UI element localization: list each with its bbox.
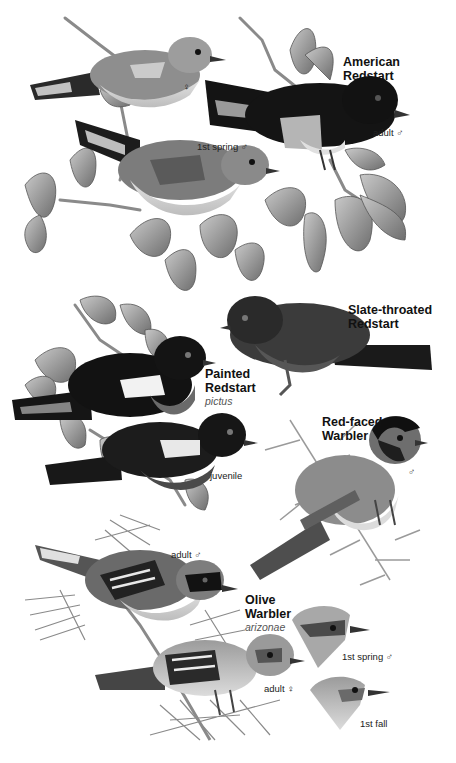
species-name-line1: American [343, 55, 400, 69]
field-guide-plate: American Redstart ♀ 1st spring ♂ adult ♂… [0, 0, 456, 763]
label-slate-throated-redstart: Slate-throated Redstart [348, 303, 432, 331]
bird-olive-warbler-adult-female [95, 634, 305, 715]
species-name-line2: Warbler [322, 429, 382, 443]
species-name-line1: Painted [205, 367, 256, 381]
species-name-line2: Warbler [245, 607, 291, 621]
label-painted-redstart: Painted Redstart pictus [205, 367, 256, 408]
label-american-redstart: American Redstart [343, 55, 400, 83]
label-red-faced-warbler: Red-faced Warbler [322, 415, 382, 443]
subspecies-name: arizonae [245, 621, 291, 634]
species-name-line1: Red-faced [322, 415, 382, 429]
caption-female: ♀ [183, 81, 190, 92]
species-name-line1: Slate-throated [348, 303, 432, 317]
species-name-line2: Redstart [343, 69, 400, 83]
bird-american-redstart-1st-spring-male [75, 120, 280, 215]
bird-olive-warbler-adult-male [35, 545, 238, 621]
label-olive-warbler: Olive Warbler arizonae [245, 593, 291, 634]
caption-adult-male: adult ♂ [171, 549, 201, 560]
caption-1st-spring-male: 1st spring ♂ [342, 651, 393, 662]
caption-1st-spring-male: 1st spring ♂ [197, 141, 248, 152]
pine-branches [25, 515, 280, 740]
caption-male: ♂ [408, 466, 415, 477]
caption-juvenile: juvenile [210, 470, 242, 481]
caption-adult-female: adult ♀ [264, 683, 294, 694]
species-name-line2: Redstart [205, 381, 256, 395]
caption-adult-male: adult ♂ [373, 127, 403, 138]
caption-1st-fall: 1st fall [360, 718, 387, 729]
bird-american-redstart-female [30, 37, 226, 107]
species-name-line2: Redstart [348, 317, 432, 331]
subspecies-name: pictus [205, 395, 256, 408]
species-name-line1: Olive [245, 593, 291, 607]
